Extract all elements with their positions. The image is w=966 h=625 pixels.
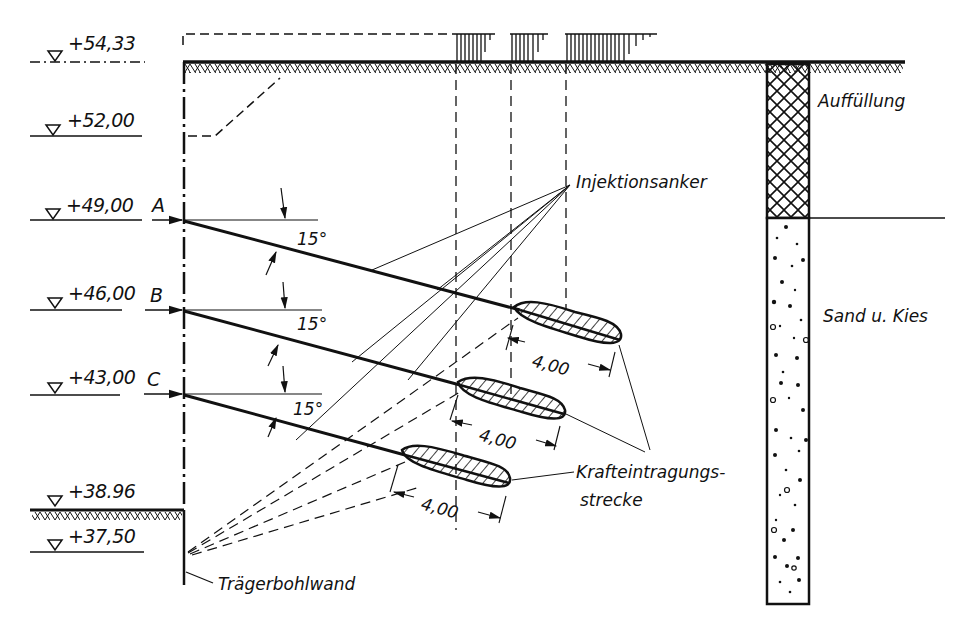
soldier-pile-wall: Trägerbohlwand: [184, 62, 355, 594]
anchor-wall-diagram: +54,33 +52,00 +49,00 +46,00 +43,00: [0, 0, 966, 625]
surcharge-loads: [455, 34, 657, 62]
elevation-54-33: +54,33: [30, 32, 145, 62]
elevation-label: +46,00: [68, 282, 136, 304]
elevation-label: +54,33: [68, 32, 135, 54]
injection-anchor-label: Injektionsanker: [576, 172, 708, 192]
sand-gravel-label: Sand u. Kies: [823, 306, 928, 326]
bond-length-label: 4,00: [530, 351, 572, 380]
elevation-38-96: +38.96: [30, 480, 184, 520]
elevation-triangle-icon: [48, 51, 62, 61]
angle-label: 15°: [297, 314, 327, 334]
elevation-triangle-icon: [48, 496, 62, 506]
anchors: A 15° 4,00 B 15°: [144, 188, 621, 555]
anchor-id-label: A: [150, 194, 165, 216]
wall-label: Trägerbohlwand: [218, 574, 355, 594]
soil-profile: Auffüllung Sand u. Kies: [767, 64, 945, 604]
elevation-label: +49,00: [66, 194, 134, 216]
elevation-43-00: +43,00: [30, 366, 136, 395]
elevation-46-00: +46,00: [30, 282, 136, 310]
angle-label: 15°: [297, 229, 327, 249]
elevation-triangle-icon: [48, 298, 62, 308]
elevation-label: +37,50: [68, 525, 136, 547]
fill-layer-column: [767, 64, 809, 218]
elevation-label: +43,00: [68, 366, 136, 388]
elevation-triangle-icon: [46, 125, 60, 135]
anchor-id-label: B: [150, 284, 163, 306]
grout-body: [514, 302, 621, 343]
anchor-row-b: B 15° 4,00: [145, 282, 565, 454]
elevation-label: +52,00: [67, 109, 135, 131]
angle-label: 15°: [293, 399, 323, 419]
elevation-triangle-icon: [48, 383, 62, 393]
force-transfer-label-line1: Krafteintragungs-: [576, 462, 725, 482]
force-transfer-label-line2: strecke: [580, 490, 643, 510]
wall-leader-line: [186, 572, 213, 583]
elevation-label: +38.96: [68, 480, 136, 502]
elevation-52-00: +52,00: [30, 109, 142, 136]
anchor-row-a: A 15° 4,00: [150, 188, 621, 380]
bond-length-label: 4,00: [477, 425, 519, 454]
bond-length-label: 4,00: [419, 494, 461, 523]
anchor-row-c: C 15° 4,00: [144, 366, 510, 523]
elevation-triangle-icon: [48, 540, 62, 550]
anchor-id-label: C: [147, 368, 161, 390]
elevation-triangle-icon: [46, 209, 60, 219]
fill-layer-label: Auffüllung: [817, 91, 905, 111]
stability-lines: [188, 318, 518, 555]
elevation-49-00: +49,00: [30, 194, 142, 220]
elevation-37-50: +37,50: [30, 525, 144, 552]
